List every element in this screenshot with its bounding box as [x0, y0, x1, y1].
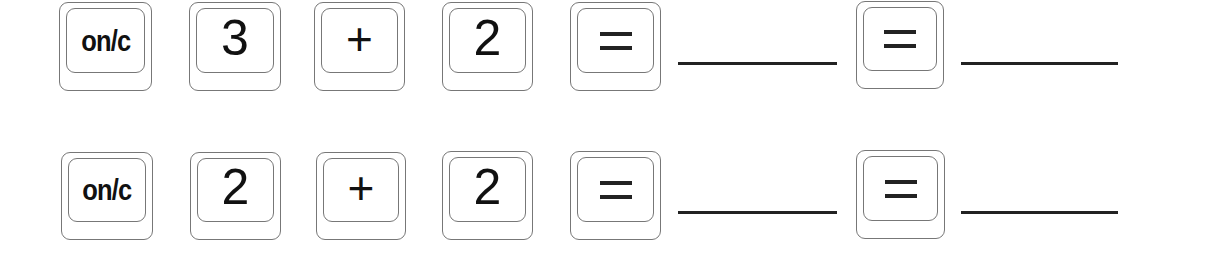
key-face: on/c — [66, 8, 145, 73]
key-face: 2 — [449, 157, 526, 222]
equals-icon — [600, 181, 632, 199]
plus-key[interactable]: + — [316, 152, 406, 240]
digit-key-2[interactable]: 2 — [190, 152, 281, 240]
key-label: + — [346, 16, 373, 62]
equals-key[interactable] — [856, 1, 944, 89]
key-face: 3 — [196, 8, 274, 73]
equals-key[interactable] — [856, 150, 945, 239]
key-face: 2 — [449, 8, 526, 73]
key-face — [577, 157, 654, 222]
digit-key-2[interactable]: 2 — [442, 151, 533, 240]
equals-key[interactable] — [570, 2, 661, 91]
key-label: 2 — [474, 13, 502, 63]
answer-blank-3[interactable] — [678, 211, 837, 214]
answer-blank-4[interactable] — [961, 211, 1118, 214]
key-face: 2 — [197, 158, 274, 222]
on-clear-key[interactable]: on/c — [61, 152, 153, 240]
equals-icon — [600, 32, 632, 50]
key-label: 2 — [474, 162, 502, 212]
key-face: on/c — [68, 158, 146, 222]
digit-key-2[interactable]: 2 — [442, 2, 533, 91]
key-face: + — [323, 158, 399, 222]
key-label: on/c — [82, 173, 131, 207]
answer-blank-1[interactable] — [678, 62, 837, 65]
key-label: + — [348, 165, 375, 211]
equals-icon — [885, 180, 917, 198]
equals-key[interactable] — [570, 151, 661, 240]
key-face — [863, 156, 938, 221]
key-face — [863, 7, 937, 71]
on-clear-key[interactable]: on/c — [59, 2, 152, 91]
key-label: 3 — [221, 13, 249, 63]
key-face: + — [321, 8, 398, 73]
key-face — [577, 8, 654, 73]
digit-key-3[interactable]: 3 — [189, 2, 281, 91]
plus-key[interactable]: + — [314, 2, 405, 91]
key-label: on/c — [81, 24, 130, 58]
answer-blank-2[interactable] — [961, 62, 1118, 65]
key-label: 2 — [222, 162, 250, 212]
equals-icon — [884, 30, 916, 48]
